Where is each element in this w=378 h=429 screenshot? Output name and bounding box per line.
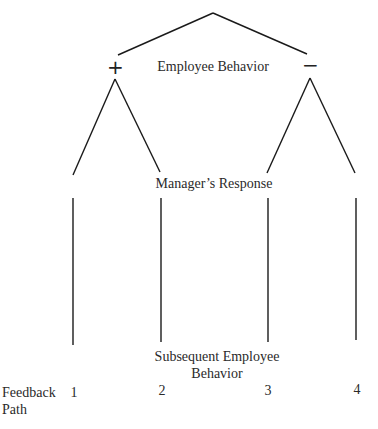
subsequent-behavior-label-2: Behavior (191, 366, 242, 382)
path-number-1: 1 (71, 385, 78, 401)
path-number-3: 3 (265, 383, 272, 399)
negative-right-branch (310, 78, 355, 173)
minus-sign-icon: − (302, 55, 319, 75)
negative-left-branch (267, 78, 310, 173)
path-label: Path (2, 402, 27, 418)
managers-response-label: Manager’s Response (156, 176, 273, 192)
root-left-branch (118, 13, 213, 55)
root-right-branch (213, 13, 307, 54)
positive-left-branch (73, 79, 115, 175)
positive-right-branch (115, 79, 160, 172)
plus-sign-icon: + (107, 57, 124, 77)
subsequent-behavior-label-1: Subsequent Employee (155, 349, 280, 365)
employee-behavior-label: Employee Behavior (157, 59, 269, 75)
path-number-4: 4 (354, 382, 361, 398)
path-number-2: 2 (159, 383, 166, 399)
feedback-label: Feedback (2, 385, 56, 401)
